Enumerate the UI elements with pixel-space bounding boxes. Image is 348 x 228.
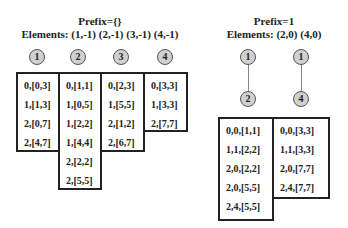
tree-node-top: 1 (240, 49, 256, 65)
list-item: 2,[2,2] (60, 152, 100, 171)
list-item: 0,[1,1] (60, 76, 100, 95)
list-item: 0,[3,3] (145, 76, 186, 95)
list-item: 2,[4,7] (18, 133, 58, 152)
list-item: 2,[6,7] (102, 133, 143, 152)
list-column-3: 0,[2,3] 1,[5,5] 2,[1,2] 2,[6,7] (100, 72, 145, 152)
left-title: Prefix={} Elements: (1,-1) (2,-1) (3,-1)… (0, 15, 200, 41)
list-item: 0,0,[1,1] (220, 121, 272, 140)
list-item: 2,[5,5] (60, 171, 100, 190)
list-item: 1,[5,5] (102, 95, 143, 114)
tree-node-top: 1 (293, 49, 309, 65)
list-column-2: 0,[1,1] 1,[0,5] 1,[2,2] 1,[4,4] 2,[2,2] … (58, 72, 102, 190)
list-item: 0,0,[3,3] (274, 121, 328, 140)
node-circle: 1 (29, 49, 45, 65)
list-item: 1,[4,4] (60, 133, 100, 152)
node-circle: 2 (70, 49, 86, 65)
list-column-1: 0,[0,3] 1,[1,3] 2,[0,7] 2,[4,7] (16, 72, 60, 152)
list-item: 2,[0,7] (18, 114, 58, 133)
list-item: 1,[3,3] (145, 95, 186, 114)
right-list-column-1: 0,0,[1,1] 1,1,[2,2] 2,0,[2,2] 2,0,[5,5] … (218, 117, 274, 221)
list-column-4: 0,[3,3] 1,[3,3] 2,[7,7] (143, 72, 188, 132)
right-title: Prefix=1 Elements: (2,0) (4,0) (200, 15, 348, 41)
list-item: 2,[7,7] (145, 114, 186, 133)
left-elements-label: Elements: (1,-1) (2,-1) (3,-1) (4,-1) (0, 28, 200, 41)
right-elements-label: Elements: (2,0) (4,0) (200, 28, 348, 41)
list-item: 2,[1,2] (102, 114, 143, 133)
node-circle: 3 (113, 49, 129, 65)
list-item: 1,1,[3,3] (274, 140, 328, 159)
node-circle: 4 (157, 49, 173, 65)
list-item: 1,[0,5] (60, 95, 100, 114)
tree-node-bottom: 4 (293, 91, 309, 107)
list-item: 0,[0,3] (18, 76, 58, 95)
right-prefix-label: Prefix=1 (200, 15, 348, 28)
list-item: 1,1,[2,2] (220, 140, 272, 159)
list-item: 1,[2,2] (60, 114, 100, 133)
list-item: 1,[1,3] (18, 95, 58, 114)
list-item: 2,0,[5,5] (220, 178, 272, 197)
list-item: 2,0,[7,7] (274, 159, 328, 178)
list-item: 2,4,[7,7] (274, 178, 328, 197)
tree-node-bottom: 2 (240, 91, 256, 107)
list-item: 2,4,[5,5] (220, 197, 272, 216)
left-prefix-label: Prefix={} (0, 15, 200, 28)
list-item: 2,0,[2,2] (220, 159, 272, 178)
list-item: 0,[2,3] (102, 76, 143, 95)
right-list-column-2: 0,0,[3,3] 1,1,[3,3] 2,0,[7,7] 2,4,[7,7] (272, 117, 330, 199)
